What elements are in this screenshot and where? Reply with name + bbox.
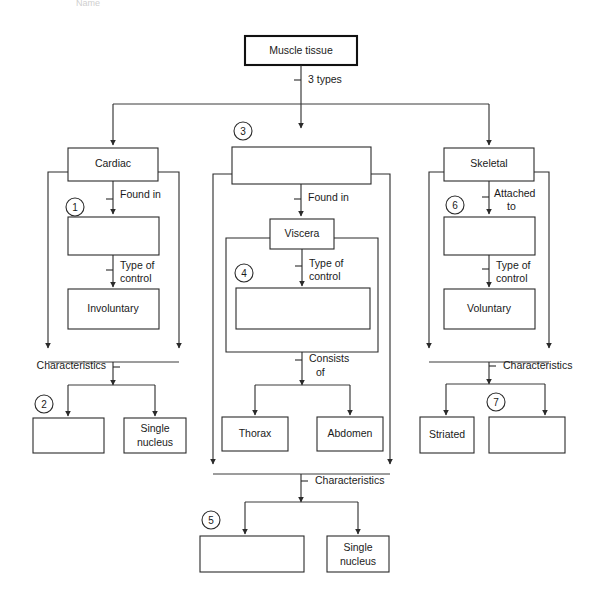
edge-smooth-char-label: Characteristics [315,474,384,486]
answer-blank-7[interactable] [489,417,565,453]
edge-skeletal-char-label: Characteristics [503,359,572,371]
edge-cardiac-control-label-2: control [120,272,152,284]
page-header-fragment: Name [76,0,100,8]
node-cardiac-label: Cardiac [95,157,131,169]
node-smooth-single-nucleus-label-1: Single [343,541,372,553]
answer-blank-6[interactable] [444,217,535,255]
edge-skeletal-attached-label-1: Attached [494,187,536,199]
edge-cardiac-wrap-right [158,172,179,348]
edge-skeletal-control-label-2: control [496,272,528,284]
node-involuntary-label: Involuntary [87,302,139,314]
edge-cardiac-wrap-left [48,172,68,348]
answer-blank-5[interactable] [200,536,304,572]
answer-blank-3[interactable] [232,147,371,184]
edge-cardiac-control-label-1: Type of [120,259,155,271]
blank-number-4: 4 [241,268,247,279]
edge-smooth-consists-label-1: Consists [309,352,349,364]
blank-number-2: 2 [41,399,47,410]
node-thorax-label: Thorax [239,427,272,439]
node-voluntary-label: Voluntary [467,302,512,314]
edge-cardiac-foundin-label-1: Found in [120,188,161,200]
edge-smooth-control-label-1: Type of [309,257,344,269]
node-striated-label: Striated [429,428,465,440]
node-viscera-label: Viscera [285,227,320,239]
node-skeletal-label: Skeletal [470,157,507,169]
node-smooth-single-nucleus-label-2: nucleus [340,555,376,567]
edge-skeletal-wrap-right [534,172,549,348]
blank-number-6: 6 [452,200,458,211]
answer-blank-1[interactable] [68,217,159,255]
blank-number-5: 5 [208,515,214,526]
node-abdomen-label: Abdomen [328,427,373,439]
edge-skeletal-control-label-1: Type of [496,259,531,271]
edge-skeletal-wrap-left [429,172,444,348]
edge-smooth-consists-label-2: of [316,366,325,378]
node-muscle-tissue-label: Muscle tissue [269,44,333,56]
answer-blank-2[interactable] [33,418,104,453]
edge-smooth-control-label-2: control [309,270,341,282]
flowchart-canvas: Name Muscle tissue 3 types Cardiac Found… [0,0,600,605]
node-cardiac-single-nucleus-label-2: nucleus [137,436,173,448]
blank-number-3: 3 [240,126,246,137]
edge-root-label: 3 types [308,73,342,85]
edge-cardiac-char-label: Characteristics [37,359,106,371]
edge-skeletal-attached-label-2: to [507,200,516,212]
node-cardiac-single-nucleus-label-1: Single [140,422,169,434]
blank-number-7: 7 [493,397,499,408]
edge-smooth-foundin-label: Found in [308,191,349,203]
blank-number-1: 1 [72,202,78,213]
answer-blank-4[interactable] [236,288,370,329]
